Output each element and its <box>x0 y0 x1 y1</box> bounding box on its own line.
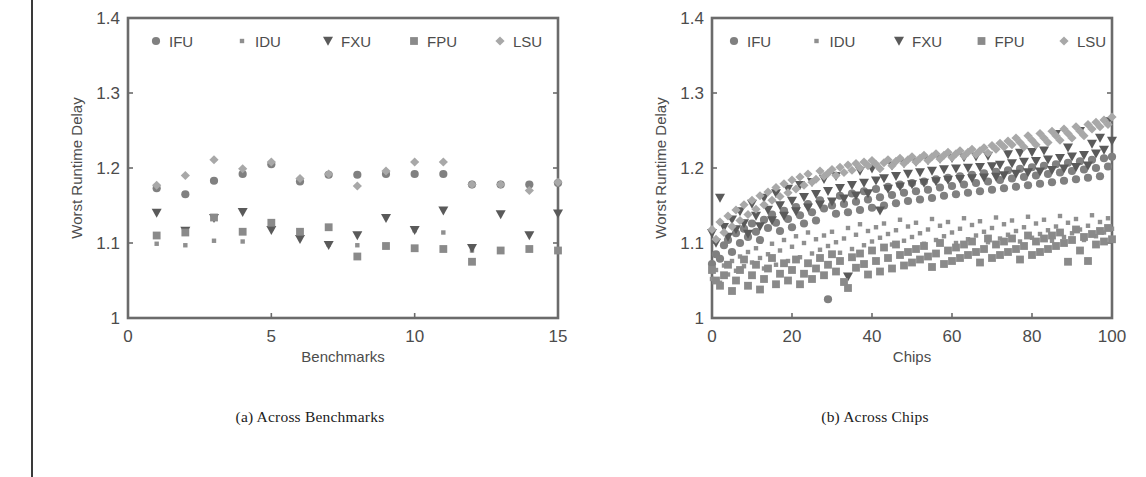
data-point-fpu <box>1028 251 1036 259</box>
data-point-fxu <box>891 172 901 181</box>
scatter-plot-across-chips: 11.11.21.31.4020406080100ChipsWorst Runt… <box>620 0 1130 400</box>
data-point-fxu <box>823 187 833 196</box>
data-point-idu <box>1054 224 1058 228</box>
data-point-ifu <box>411 170 419 178</box>
data-point-idu <box>930 217 934 221</box>
data-point-fpu <box>916 256 924 264</box>
data-point-idu <box>1010 218 1014 222</box>
y-axis-tick-label: 1 <box>695 309 704 328</box>
data-point-fpu <box>752 261 760 269</box>
legend-label-lsu: LSU <box>1077 33 1106 50</box>
data-point-fxu <box>871 177 881 186</box>
data-point-idu <box>842 236 846 240</box>
data-point-lsu <box>787 175 796 184</box>
x-axis-tick-label: 10 <box>405 327 424 346</box>
data-point-fpu <box>960 241 968 249</box>
data-point-ifu <box>210 177 218 185</box>
data-point-idu <box>830 230 834 234</box>
data-point-ifu <box>716 255 724 263</box>
data-point-lsu <box>467 180 476 189</box>
data-point-ifu <box>904 197 912 205</box>
data-point-idu <box>1002 222 1006 226</box>
data-point-fpu <box>784 277 792 285</box>
data-point-lsu <box>410 157 419 166</box>
data-point-idu <box>778 248 782 252</box>
data-point-fxu <box>927 167 937 176</box>
data-point-idu <box>770 242 774 246</box>
data-point-fpu <box>1064 258 1072 266</box>
data-point-ifu <box>812 216 820 224</box>
data-point-fpu <box>988 254 996 262</box>
data-point-idu <box>1106 216 1110 220</box>
data-point-lsu <box>783 188 792 197</box>
data-point-ifu <box>868 204 876 212</box>
data-point-idu <box>806 230 810 234</box>
data-point-ifu <box>824 295 832 303</box>
scatter-plot-across-benchmarks: 11.11.21.31.4051015BenchmarksWorst Runti… <box>40 0 580 400</box>
data-point-ifu <box>952 190 960 198</box>
data-point-fpu <box>932 250 940 258</box>
data-points-group <box>707 112 1117 303</box>
y-axis-tick-label: 1.1 <box>680 234 704 253</box>
data-point-ifu <box>1108 153 1116 161</box>
data-point-fpu <box>153 232 161 240</box>
data-point-fpu <box>768 254 776 262</box>
data-point-ifu <box>988 186 996 194</box>
data-point-fpu <box>904 248 912 256</box>
data-point-ifu <box>788 223 796 231</box>
data-point-fpu <box>210 214 218 222</box>
data-point-ifu <box>1104 162 1112 170</box>
y-axis-title: Worst Runtime Delay <box>68 97 85 239</box>
data-point-fpu <box>992 241 1000 249</box>
data-point-ifu <box>1084 174 1092 182</box>
legend-label-fxu: FXU <box>912 33 942 50</box>
data-point-fpu <box>1092 241 1100 249</box>
data-point-fpu <box>996 251 1004 259</box>
data-point-ifu <box>736 239 744 247</box>
data-point-fpu <box>800 270 808 278</box>
data-point-idu <box>441 230 445 234</box>
data-point-fpu <box>1080 233 1088 241</box>
data-point-fpu <box>964 251 972 259</box>
data-point-fxu <box>859 179 869 188</box>
data-point-lsu <box>439 157 448 166</box>
data-point-lsu <box>525 186 534 195</box>
legend-label-idu: IDU <box>830 33 856 50</box>
data-point-idu <box>946 220 950 224</box>
data-point-idu <box>854 233 858 237</box>
data-point-lsu <box>496 180 505 189</box>
data-point-fpu <box>836 257 844 265</box>
data-point-fpu <box>267 219 275 227</box>
data-point-fpu <box>796 280 804 288</box>
legend-label-idu: IDU <box>255 33 281 50</box>
data-point-idu <box>1074 217 1078 221</box>
figure-caption-b: (b) Across Chips <box>620 408 1130 426</box>
data-point-fpu <box>924 253 932 261</box>
data-point-fpu <box>808 275 816 283</box>
data-point-fpu <box>804 259 812 267</box>
figure-panel-across-chips: 11.11.21.31.4020406080100ChipsWorst Runt… <box>620 0 1130 477</box>
data-point-ifu <box>844 208 852 216</box>
x-axis-tick-label: 100 <box>1098 327 1126 346</box>
data-point-ifu <box>964 189 972 197</box>
data-point-fpu <box>1008 235 1016 243</box>
figure-panel-across-benchmarks: 11.11.21.31.4051015BenchmarksWorst Runti… <box>40 0 580 477</box>
data-point-fpu <box>1000 238 1008 246</box>
data-point-fpu <box>908 259 916 267</box>
data-point-idu <box>982 230 986 234</box>
data-point-fpu <box>920 242 928 250</box>
data-point-fpu <box>525 245 533 253</box>
data-point-ifu <box>1036 180 1044 188</box>
data-point-idu <box>850 247 854 251</box>
data-point-fpu <box>868 247 876 255</box>
legend-label-fpu: FPU <box>995 33 1025 50</box>
x-axis-tick-label: 15 <box>549 327 568 346</box>
legend-marker-lsu <box>495 36 504 45</box>
data-point-fpu <box>776 270 784 278</box>
data-point-fxu <box>847 181 857 190</box>
data-point-fpu <box>1060 239 1068 247</box>
data-point-fxu <box>951 165 961 174</box>
data-point-fxu <box>835 184 845 193</box>
data-point-ifu <box>728 248 736 256</box>
data-point-fpu <box>736 266 744 274</box>
